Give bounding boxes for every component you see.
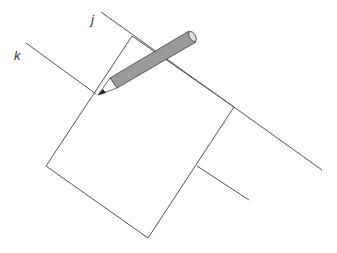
pencil-icon [98, 30, 198, 95]
pencil-body [110, 31, 196, 88]
label-j: j [89, 12, 95, 27]
geometry-figure: j k [0, 0, 337, 253]
label-k: k [14, 48, 22, 63]
line-k [26, 43, 96, 94]
branch-line [197, 166, 249, 200]
diagram-canvas: j k [0, 0, 337, 253]
